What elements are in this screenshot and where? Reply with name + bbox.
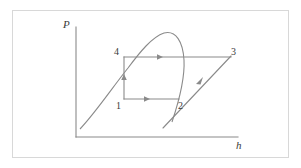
axis-label-enthalpy: h [236, 140, 242, 151]
process-arrow-2-3 [196, 77, 203, 85]
state-point-label-3: 3 [231, 47, 236, 57]
axis-label-pressure: P [63, 19, 70, 30]
saturation-dome-curve [80, 33, 184, 129]
state-point-label-4: 4 [114, 47, 119, 57]
state-point-label-1: 1 [116, 101, 121, 111]
ph-diagram-canvas [0, 0, 301, 168]
state-point-label-2: 2 [178, 101, 183, 111]
process-arrow-1-2 [144, 96, 150, 102]
process-arrow-4-3 [157, 54, 163, 60]
compression-line [163, 56, 231, 128]
